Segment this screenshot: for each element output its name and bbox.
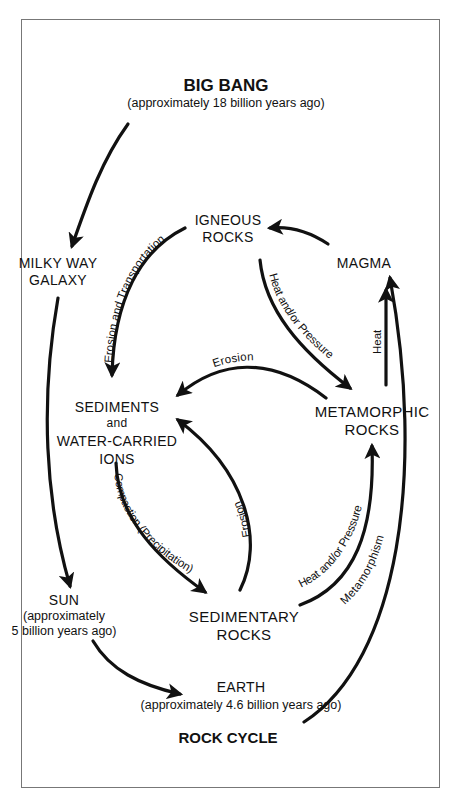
node-big-bang: BIG BANG (approximately 18 billion years…	[127, 76, 324, 111]
edge-label-heat: Heat	[371, 329, 383, 354]
sediments-line2: and	[57, 416, 178, 432]
sediments-line3: WATER-CARRIED	[57, 432, 178, 450]
big-bang-sub: (approximately 18 billion years ago)	[127, 96, 324, 111]
milky-way-line1: MILKY WAY	[19, 255, 98, 272]
node-magma: MAGMA	[337, 255, 391, 272]
node-milky-way: MILKY WAY GALAXY	[19, 255, 98, 289]
arrow-metamorphic-to-sediments	[178, 367, 326, 398]
big-bang-label: BIG BANG	[127, 76, 324, 96]
edge-label-compaction: Compaction (Precipitation)	[112, 473, 196, 575]
edge-label-erosion-transportation: Erosion and Transportation	[102, 232, 167, 363]
node-metamorphic-rocks: METAMORPHIC ROCKS	[315, 403, 430, 439]
igneous-line1: IGNEOUS	[195, 212, 262, 229]
sedimentary-line2: ROCKS	[189, 626, 299, 644]
edge-label-heat-pressure-1: Heat and/or Pressure	[267, 272, 336, 361]
arrow-sediments-to-sedimentary	[116, 463, 205, 592]
metamorphic-line2: ROCKS	[315, 421, 430, 439]
magma-label: MAGMA	[337, 255, 391, 272]
sediments-line4: IONS	[57, 450, 178, 468]
sediments-line1: SEDIMENTS	[57, 398, 178, 416]
arrow-bigbang-to-milkyway	[72, 124, 128, 246]
edge-label-erosion-2: Erosion	[231, 500, 253, 539]
sedimentary-line1: SEDIMENTARY	[189, 608, 299, 626]
node-sun: SUN (approximately 5 billion years ago)	[12, 592, 117, 639]
sun-sub1: (approximately	[12, 609, 117, 624]
node-sediments: SEDIMENTS and WATER-CARRIED IONS	[57, 398, 178, 468]
sun-label: SUN	[12, 592, 117, 609]
diagram-title: ROCK CYCLE	[178, 729, 277, 747]
metamorphic-line1: METAMORPHIC	[315, 403, 430, 421]
edge-label-heat-pressure-2: Heat and/or Pressure	[297, 504, 364, 590]
sun-sub2: 5 billion years ago)	[12, 624, 117, 639]
node-sedimentary-rocks: SEDIMENTARY ROCKS	[189, 608, 299, 644]
node-igneous-rocks: IGNEOUS ROCKS	[195, 212, 262, 246]
node-earth: EARTH (approximately 4.6 billion years a…	[141, 679, 342, 713]
earth-label: EARTH	[141, 679, 342, 696]
milky-way-line2: GALAXY	[19, 272, 98, 289]
earth-sub: (approximately 4.6 billion years ago)	[141, 698, 342, 713]
arrow-magma-to-igneous	[270, 228, 328, 244]
igneous-line2: ROCKS	[195, 229, 262, 246]
